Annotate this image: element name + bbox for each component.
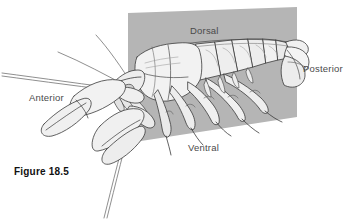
figure-illustration: Dorsal Posterior Anterior Ventral Figure…: [0, 0, 345, 219]
crayfish-diagram-svg: [0, 0, 345, 219]
label-ventral: Ventral: [188, 142, 219, 153]
label-anterior: Anterior: [29, 92, 64, 103]
label-posterior: Posterior: [303, 63, 343, 74]
cheliped-upper-dactyl: [41, 98, 91, 136]
label-dorsal: Dorsal: [190, 25, 219, 36]
walking-leg-5-tip: [166, 136, 171, 155]
figure-caption: Figure 18.5: [14, 166, 69, 177]
abdomen-segment-5: [263, 39, 278, 63]
